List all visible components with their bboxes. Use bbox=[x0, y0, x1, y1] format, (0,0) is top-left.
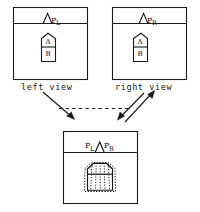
right-view-caption: right view bbox=[115, 83, 172, 92]
merged-view-apex-label-left-sub: L bbox=[90, 145, 94, 153]
left-view-region-a-label: A bbox=[46, 39, 51, 46]
left-view-apex-label: PL bbox=[51, 10, 61, 26]
left-view-apex-label-sub: L bbox=[56, 19, 60, 27]
left-view-region-b-label: B bbox=[46, 51, 51, 58]
right-view-apex-label-sub: R bbox=[152, 19, 157, 27]
merged-view-apex-label-left: PL bbox=[85, 135, 95, 151]
right-view-apex-label: PR bbox=[147, 10, 157, 26]
left-to-merged-arrow-shaft bbox=[43, 92, 73, 118]
merged-view-apex-label-right: PR bbox=[104, 135, 114, 151]
right-view-region-a-label: A bbox=[138, 39, 143, 46]
right-view-region-b-label: B bbox=[138, 51, 143, 58]
merged-to-right-arrow-shaft bbox=[125, 93, 153, 123]
stereo-view-diagram bbox=[0, 0, 200, 212]
connector-group bbox=[43, 90, 155, 122]
left-view-caption: left view bbox=[21, 83, 72, 92]
merged-view-apex-label-right-sub: R bbox=[109, 145, 114, 153]
merged-view-panel bbox=[64, 132, 138, 204]
